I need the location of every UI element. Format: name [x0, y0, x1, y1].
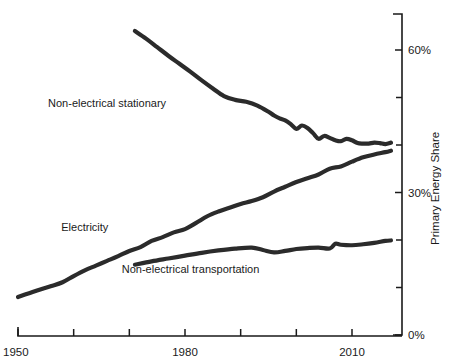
x-tick-label: 2010 — [339, 346, 365, 358]
y-axis-tick-labels: 0%30%60% — [408, 44, 431, 341]
y-tick-label: 30% — [408, 187, 431, 199]
series-line-0 — [135, 31, 391, 144]
y-axis-title: Primary Energy Share — [429, 132, 441, 245]
x-axis-ticks — [18, 329, 352, 336]
series-label-2: Non-electrical transportation — [122, 263, 260, 275]
series-label-1: Electricity — [61, 221, 109, 233]
energy-share-line-chart: 0%30%60% 195019802010 Non-electrical sta… — [0, 0, 461, 361]
series-line-2 — [135, 240, 391, 264]
series-label-0: Non-electrical stationary — [48, 97, 166, 109]
x-axis-tick-labels: 195019802010 — [3, 346, 365, 358]
y-tick-label: 0% — [408, 329, 425, 341]
figure-container: 0%30%60% 195019802010 Non-electrical sta… — [0, 0, 461, 361]
x-tick-label: 1950 — [3, 346, 29, 358]
y-axis-ticks — [395, 50, 402, 335]
y-tick-label: 60% — [408, 44, 431, 56]
x-tick-label: 1980 — [172, 346, 198, 358]
x-axis-line — [18, 327, 402, 336]
series-lines-group — [18, 31, 391, 297]
